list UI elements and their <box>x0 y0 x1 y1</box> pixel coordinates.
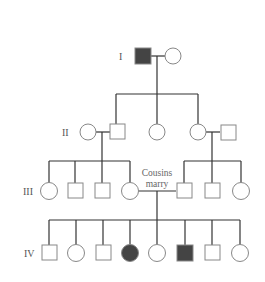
generation-label-III: III <box>23 186 33 197</box>
individual-I-2-female <box>165 48 181 64</box>
mating-line-gen-I <box>116 56 198 124</box>
consanguineous-mating-line <box>49 191 240 245</box>
individual-II-2-male <box>110 124 125 139</box>
individual-IV-8-female <box>232 245 249 262</box>
individual-II-4-female <box>190 124 206 140</box>
individual-III-1-female <box>41 183 58 200</box>
generation-label-I: I <box>119 51 122 62</box>
pedigree-diagram: I II III IV <box>0 0 265 282</box>
individual-II-3-female <box>149 124 165 140</box>
individual-IV-6-affected-male <box>177 245 193 261</box>
individual-III-2-male <box>68 183 83 198</box>
annotation-marry: marry <box>146 179 169 189</box>
individual-IV-4-affected-female <box>122 245 139 262</box>
individual-III-5-male <box>177 183 192 198</box>
individual-IV-1-male <box>42 245 57 260</box>
individual-I-1-affected-male <box>135 48 151 64</box>
individual-IV-7-male <box>205 245 220 260</box>
individual-II-5-male <box>221 125 236 140</box>
individual-IV-2-female <box>68 245 85 262</box>
individual-III-3-male <box>95 183 110 198</box>
generation-label-II: II <box>62 127 69 138</box>
individual-II-1-female <box>80 124 96 140</box>
individual-III-7-female <box>233 183 250 200</box>
generation-label-IV: IV <box>24 248 35 259</box>
individual-IV-3-male <box>96 245 111 260</box>
individual-III-6-male <box>205 183 220 198</box>
individual-IV-5-female <box>149 245 166 262</box>
individual-III-4-female <box>122 183 139 200</box>
annotation-cousins: Cousins <box>142 168 173 178</box>
